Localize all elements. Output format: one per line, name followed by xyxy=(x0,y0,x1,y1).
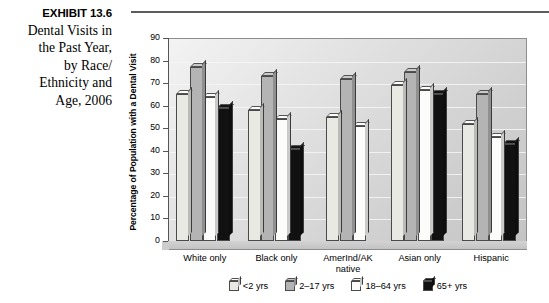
y-axis-tick-label: 70 xyxy=(150,77,160,87)
y-axis-tick-label: 90 xyxy=(150,32,160,42)
exhibit-number: EXHIBIT 13.6 xyxy=(0,6,122,21)
bar-group xyxy=(176,38,236,241)
bar-group xyxy=(248,38,308,241)
chart-legend: <2 yrs2–17 yrs18–64 yrs65+ yrs xyxy=(169,281,527,291)
exhibit-caption: EXHIBIT 13.6 Dental Visits inthe Past Ye… xyxy=(0,6,122,109)
x-axis-label: White only xyxy=(169,253,241,264)
exhibit-title-line: Ethnicity and xyxy=(0,74,112,91)
y-axis-title: Percentage of Population with a Dental V… xyxy=(128,31,142,253)
legend-swatch xyxy=(351,281,361,291)
legend-swatch xyxy=(285,281,295,291)
legend-swatch xyxy=(229,281,239,291)
y-axis-tick: 50 xyxy=(163,128,168,129)
x-axis-label: Hispanic xyxy=(455,253,527,264)
y-axis-tick: 40 xyxy=(163,151,168,152)
y-axis-tick: 30 xyxy=(163,173,168,174)
y-axis-tick-label: 10 xyxy=(150,212,160,222)
y-axis-tick-label: 50 xyxy=(150,122,160,132)
legend-label: 65+ yrs xyxy=(437,281,467,291)
bar-chart: Percentage of Population with a Dental V… xyxy=(131,13,549,303)
y-axis-tick-label: 40 xyxy=(150,145,160,155)
bar[interactable] xyxy=(462,124,475,241)
bar[interactable] xyxy=(326,117,339,241)
legend-swatch xyxy=(423,281,433,291)
y-axis-tick-label: 60 xyxy=(150,100,160,110)
bar-group xyxy=(326,38,372,241)
exhibit-title-line: Dental Visits in xyxy=(0,22,112,39)
bar-group xyxy=(391,38,451,241)
exhibit-title: Dental Visits inthe Past Year,by Race/Et… xyxy=(0,21,122,109)
y-axis-tick-label: 80 xyxy=(150,55,160,65)
x-axis-labels: White onlyBlack onlyAmerInd/AK nativeAsi… xyxy=(169,253,527,279)
exhibit-title-line: Age, 2006 xyxy=(0,92,112,109)
x-axis-label: Black only xyxy=(241,253,313,264)
bar-series-container xyxy=(169,38,527,241)
y-axis-tick-label: 0 xyxy=(155,235,160,245)
x-axis-label: Asian only xyxy=(384,253,456,264)
legend-item[interactable]: 18–64 yrs xyxy=(351,281,405,291)
y-axis-tick: 0 xyxy=(163,241,168,242)
bar[interactable] xyxy=(391,85,404,241)
y-axis-tick: 70 xyxy=(163,83,168,84)
bar-group xyxy=(462,38,522,241)
legend-item[interactable]: <2 yrs xyxy=(229,281,268,291)
exhibit-title-line: by Race/ xyxy=(0,57,112,74)
plot-floor xyxy=(169,241,527,250)
y-axis-tick: 10 xyxy=(163,218,168,219)
y-axis-tick: 90 xyxy=(163,38,168,39)
legend-label: 2–17 yrs xyxy=(299,281,334,291)
y-axis-tick-label: 20 xyxy=(150,190,160,200)
legend-item[interactable]: 65+ yrs xyxy=(423,281,467,291)
bar[interactable] xyxy=(176,94,189,241)
y-axis-tick: 80 xyxy=(163,61,168,62)
bar[interactable] xyxy=(248,110,261,241)
y-axis-tick-label: 30 xyxy=(150,167,160,177)
legend-label: 18–64 yrs xyxy=(365,281,405,291)
legend-item[interactable]: 2–17 yrs xyxy=(285,281,334,291)
exhibit-title-line: the Past Year, xyxy=(0,39,112,56)
legend-label: <2 yrs xyxy=(243,281,268,291)
y-axis-tick: 20 xyxy=(163,196,168,197)
y-axis-tick: 60 xyxy=(163,106,168,107)
x-axis-label: AmerInd/AK native xyxy=(312,253,384,275)
